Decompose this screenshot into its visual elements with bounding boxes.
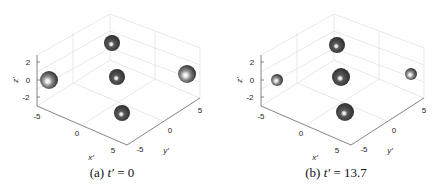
z-axis-label: z′ xyxy=(235,77,244,84)
y-tick-0: 0 xyxy=(168,126,173,135)
x-tick-5: 5 xyxy=(335,146,340,155)
y-tick-neg5: -5 xyxy=(136,145,144,154)
x-tick-neg5: -5 xyxy=(257,112,265,121)
z-tick-2: 2 xyxy=(250,58,255,67)
z-tick-neg2: -2 xyxy=(22,93,30,102)
plot-3d-a: 2 0 -2 z′ -5 0 5 x′ -5 0 5 y′ xyxy=(0,0,224,165)
x-axis-label: x′ xyxy=(87,153,94,162)
panel-b: 2 0 -2 z′ -5 0 5 x′ -5 0 5 y′ (b) t′ = 1… xyxy=(224,0,447,192)
y-tick-5: 5 xyxy=(422,106,427,115)
y-tick-5: 5 xyxy=(198,106,203,115)
y-axis-label: y′ xyxy=(386,146,393,155)
caption-value: = 13.7 xyxy=(330,165,367,180)
x-tick-0: 0 xyxy=(75,129,80,138)
sphere-left xyxy=(40,71,58,89)
caption-prefix: (b) xyxy=(305,165,323,180)
y-axis-label: y′ xyxy=(162,146,169,155)
sphere-right xyxy=(178,65,196,83)
z-tick-0: 0 xyxy=(26,76,31,85)
z-axis-label: z′ xyxy=(11,77,20,84)
y-tick-neg5: -5 xyxy=(360,145,368,154)
sphere-center xyxy=(109,69,125,85)
z-tick-2: 2 xyxy=(26,58,31,67)
caption-a: (a) t′ = 0 xyxy=(0,165,224,181)
caption-b: (b) t′ = 13.7 xyxy=(224,165,447,181)
spheres xyxy=(271,37,417,121)
caption-value: = 0 xyxy=(114,165,134,180)
sphere-front xyxy=(114,105,130,121)
sphere-back xyxy=(104,35,120,51)
sphere-center xyxy=(332,68,350,86)
x-axis-label: x′ xyxy=(311,153,318,162)
z-tick-neg2: -2 xyxy=(246,93,254,102)
spheres xyxy=(40,35,196,121)
axis-lines xyxy=(37,55,200,145)
x-tick-5: 5 xyxy=(111,146,116,155)
sphere-left xyxy=(271,74,283,86)
x-tick-neg5: -5 xyxy=(33,112,41,121)
plot-3d-b: 2 0 -2 z′ -5 0 5 x′ -5 0 5 y′ xyxy=(224,0,447,165)
caption-prefix: (a) xyxy=(90,165,108,180)
sphere-back xyxy=(329,37,345,53)
x-tick-0: 0 xyxy=(299,129,304,138)
sphere-right xyxy=(405,68,417,80)
sphere-front xyxy=(336,103,354,121)
panel-a: 2 0 -2 z′ -5 0 5 x′ -5 0 5 y′ (a) t′ = 0 xyxy=(0,0,224,192)
y-tick-0: 0 xyxy=(392,126,397,135)
z-tick-0: 0 xyxy=(250,76,255,85)
